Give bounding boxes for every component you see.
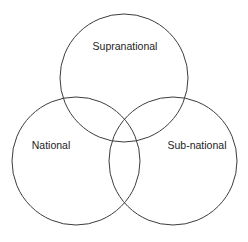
circle-national[interactable] xyxy=(12,97,140,225)
label-national: National xyxy=(32,139,71,151)
venn-diagram-canvas: Supranational National Sub-national xyxy=(0,0,248,242)
circle-supranational[interactable] xyxy=(60,14,188,142)
venn-diagram: Supranational National Sub-national xyxy=(0,0,248,242)
label-sub-national: Sub-national xyxy=(168,139,227,151)
label-supranational: Supranational xyxy=(93,40,158,52)
circle-sub-national[interactable] xyxy=(109,97,237,225)
